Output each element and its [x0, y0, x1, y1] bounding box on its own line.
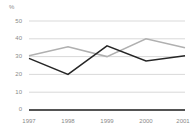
x-tick-label-1999: 1999 — [94, 118, 120, 124]
x-tick-label-1998: 1998 — [55, 118, 81, 124]
line-chart: % 50 40 30 20 10 0 1997 1998 1999 2000 2… — [0, 0, 192, 134]
x-tick-label-1997: 1997 — [16, 118, 42, 124]
plot-area — [0, 0, 192, 134]
x-tick-label-2001: 2001 — [170, 118, 192, 124]
series-line-gray — [29, 39, 185, 57]
x-tick-label-2000: 2000 — [133, 118, 159, 124]
